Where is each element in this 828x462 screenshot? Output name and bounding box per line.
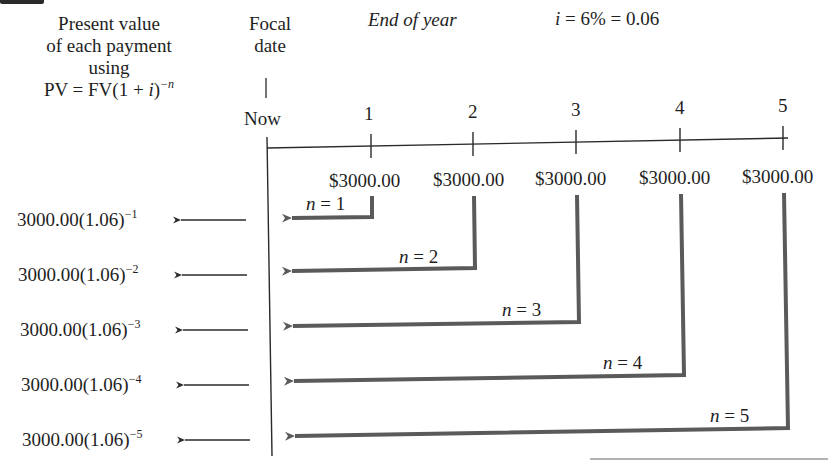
timeline-axis bbox=[267, 138, 788, 148]
discount-arrow-4 bbox=[294, 194, 684, 381]
discount-arrow-2 bbox=[292, 196, 475, 271]
discount-arrow-5 bbox=[295, 193, 788, 436]
discount-arrow-1 bbox=[292, 196, 372, 218]
now-vertical-line bbox=[267, 137, 272, 456]
timeline-diagram-graphics bbox=[0, 0, 828, 462]
discount-arrow-3 bbox=[293, 195, 579, 326]
